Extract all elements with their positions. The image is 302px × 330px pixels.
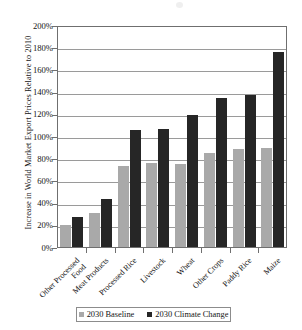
legend-label-baseline: 2030 Baseline [87,310,135,319]
y-axis-tick-label: 180% [9,44,53,53]
bar-climate-change [130,130,141,247]
y-axis-tick-label: 140% [9,88,53,97]
y-axis-tick-label: 120% [9,110,53,119]
bar-group [87,27,116,247]
plot-area [57,26,287,248]
legend-label-climate-change: 2030 Climate Change [155,310,228,319]
bar-group [231,27,260,247]
x-axis-tick-mark [86,248,87,253]
bar-climate-change [187,115,198,247]
legend-swatch-baseline-icon [79,312,84,317]
y-axis-tick-label: 80% [9,155,53,164]
bar-group [144,27,173,247]
bar-baseline [89,213,100,247]
legend-swatch-climate-change-icon [147,312,152,317]
y-axis-tick-label: 100% [9,133,53,142]
bar-group [202,27,231,247]
bar-baseline [175,164,186,247]
bar-baseline [261,148,272,247]
y-axis-tick-label: 60% [9,177,53,186]
legend-item-baseline: 2030 Baseline [79,310,135,319]
bar-group [58,27,87,247]
x-axis-tick-mark [172,248,173,253]
bar-chart: Increase in World Market Export Prices R… [0,0,302,330]
scan-artifact [176,2,183,8]
legend-item-climate-change: 2030 Climate Change [147,310,228,319]
y-axis-tick-label: 200% [9,22,53,31]
bar-climate-change [216,98,227,247]
bar-baseline [118,166,129,247]
y-axis-tick-label: 160% [9,66,53,75]
y-axis-tick-label: 20% [9,221,53,230]
x-axis-tick-mark [230,248,231,253]
bar-climate-change [72,217,83,247]
bar-climate-change [245,95,256,247]
x-axis-tick-mark [115,248,116,253]
bar-group [173,27,202,247]
bar-baseline [233,149,244,247]
y-axis-tick-label: 40% [9,199,53,208]
bar-group [116,27,145,247]
y-axis-tick-mark [52,248,57,249]
bar-baseline [60,225,71,247]
x-axis-tick-mark [143,248,144,253]
y-axis-tick-label: 0% [9,244,53,253]
bar-climate-change [158,129,169,247]
x-axis-tick-mark [201,248,202,253]
bar-baseline [204,153,215,247]
bar-group [259,27,288,247]
bar-baseline [146,163,157,247]
chart-legend: 2030 Baseline 2030 Climate Change [76,307,231,322]
x-axis-tick-mark [258,248,259,253]
bar-climate-change [273,52,284,247]
bar-climate-change [101,199,112,247]
